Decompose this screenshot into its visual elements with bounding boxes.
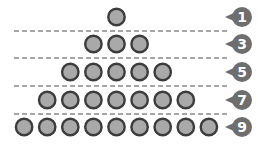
dot [62, 64, 78, 80]
dot [85, 92, 101, 108]
dot [108, 36, 124, 52]
dot [16, 119, 32, 135]
dot [108, 9, 124, 25]
dot [131, 36, 147, 52]
dot [85, 36, 101, 52]
dot [108, 119, 124, 135]
dot [39, 119, 55, 135]
dot [85, 119, 101, 135]
row-5: 5 [62, 62, 252, 82]
dot [131, 64, 147, 80]
dot [155, 92, 171, 108]
count-badge: 3 [225, 34, 252, 54]
count-badge: 1 [225, 7, 252, 27]
dot [155, 119, 171, 135]
dot [85, 64, 101, 80]
count-badge: 9 [225, 117, 252, 137]
dot [39, 92, 55, 108]
dot [62, 92, 78, 108]
dot [178, 92, 194, 108]
dot [131, 119, 147, 135]
dot [201, 119, 217, 135]
row-9: 9 [16, 117, 252, 137]
dot [131, 92, 147, 108]
dot [108, 64, 124, 80]
badge-label: 3 [237, 36, 247, 52]
row-3: 3 [85, 34, 252, 54]
row-1: 1 [108, 7, 252, 27]
dot [178, 119, 194, 135]
dot [108, 92, 124, 108]
badge-label: 1 [237, 9, 247, 25]
badge-label: 9 [237, 119, 247, 135]
dot [62, 119, 78, 135]
odd-number-pyramid-diagram: 13579 [0, 0, 268, 148]
dot [155, 64, 171, 80]
row-7: 7 [39, 90, 252, 110]
count-badge: 7 [225, 90, 252, 110]
badge-label: 5 [237, 64, 247, 80]
badge-label: 7 [237, 92, 247, 108]
count-badge: 5 [225, 62, 252, 82]
